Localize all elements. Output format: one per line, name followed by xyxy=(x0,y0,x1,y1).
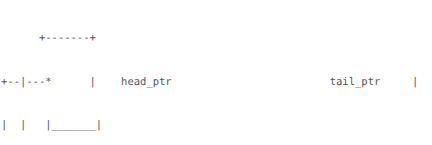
ascii-line-3: | | |_______| |___|___| xyxy=(1,118,432,133)
diagram-canvas: +-------+ +-------+ +--|---* | head_ptr … xyxy=(0,0,432,145)
ascii-line-2-head-ptr: +--|---* | head_ptr tail_ptr | * | xyxy=(1,75,432,90)
ascii-line-1: +-------+ +-------+ xyxy=(1,31,432,46)
ascii-art-diagram: +-------+ +-------+ +--|---* | head_ptr … xyxy=(0,0,432,145)
